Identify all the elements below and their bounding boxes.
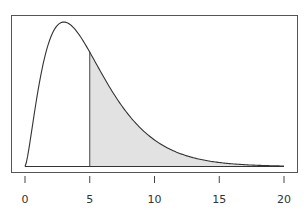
x-tick-label: 15 <box>212 193 226 206</box>
x-tick-label: 5 <box>86 193 93 206</box>
x-tick-label: 10 <box>148 193 162 206</box>
shaded-tail-area <box>90 52 284 166</box>
density-chart: 05101520 <box>0 0 306 217</box>
x-axis: 05101520 <box>22 176 292 206</box>
x-tick-label: 0 <box>22 193 29 206</box>
x-tick-label: 20 <box>277 193 291 206</box>
